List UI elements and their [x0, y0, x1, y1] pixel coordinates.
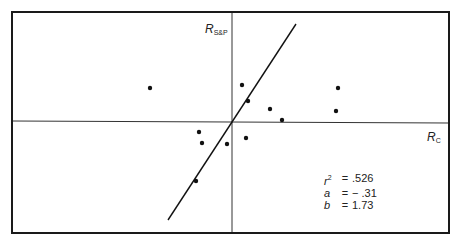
data-point	[246, 99, 250, 103]
r2-superscript: 2	[328, 174, 332, 181]
data-point	[200, 141, 204, 145]
x-axis-label-sub: C	[436, 137, 441, 144]
a-key: a	[324, 187, 338, 199]
equals-sign: =	[338, 172, 352, 187]
data-point	[268, 107, 272, 111]
equals-sign: =	[338, 199, 352, 211]
b-key: b	[324, 199, 338, 211]
data-point	[244, 136, 248, 140]
scatter-plot	[0, 0, 461, 242]
x-axis-label-main: R	[427, 130, 436, 144]
y-axis-label-main: R	[205, 22, 214, 36]
data-point	[148, 86, 152, 90]
data-point	[240, 83, 244, 87]
x-axis	[13, 121, 448, 123]
data-point	[197, 130, 201, 134]
stat-slope: b = 1.73	[324, 199, 377, 211]
equals-sign: =	[338, 187, 352, 199]
regression-stats: r2 = .526 a = − .31 b = 1.73	[324, 172, 377, 211]
data-points	[148, 83, 340, 183]
data-point	[280, 118, 284, 122]
y-axis-label: RS&P	[205, 22, 228, 36]
stat-r-squared: r2 = .526	[324, 172, 377, 187]
b-value: 1.73	[352, 199, 373, 211]
data-point	[225, 142, 229, 146]
r2-value: .526	[352, 172, 373, 187]
a-value: − .31	[352, 187, 377, 199]
data-point	[194, 179, 198, 183]
data-point	[336, 86, 340, 90]
y-axis-label-sub: S&P	[214, 29, 228, 36]
stat-intercept: a = − .31	[324, 187, 377, 199]
x-axis-label: RC	[427, 130, 441, 144]
data-point	[334, 109, 338, 113]
